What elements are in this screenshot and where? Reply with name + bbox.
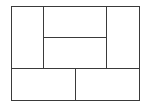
outer-top-edge	[11, 6, 140, 7]
outer-left-edge	[11, 6, 12, 101]
outer-right-edge	[139, 6, 140, 101]
divider-bottom-vertical	[75, 68, 76, 101]
divider-center-horizontal	[43, 37, 107, 38]
